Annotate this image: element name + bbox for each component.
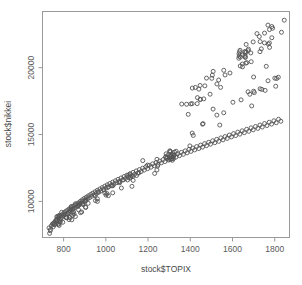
scatter-plot-figure: 80010001200140016001800 100001500020000 …	[0, 0, 302, 285]
data-point	[215, 82, 219, 86]
x-tick-label: 1200	[139, 244, 158, 254]
y-tick-label: 10000	[27, 189, 37, 213]
data-point	[249, 51, 253, 55]
data-point	[222, 111, 226, 115]
data-point	[180, 102, 184, 106]
x-tick-label: 800	[57, 244, 71, 254]
x-tick-label: 1400	[181, 244, 200, 254]
data-points-layer	[47, 18, 286, 235]
data-point	[141, 159, 145, 163]
x-axis-title: stock$TOPIX	[141, 264, 191, 274]
data-point	[208, 92, 212, 96]
data-point	[222, 68, 226, 72]
y-tick-label: 15000	[27, 122, 37, 146]
data-point	[111, 191, 115, 195]
data-point	[258, 40, 262, 44]
data-point	[223, 73, 227, 77]
y-tick-label: 20000	[27, 56, 37, 80]
x-tick-label: 1800	[265, 244, 284, 254]
data-point	[262, 41, 266, 45]
data-point	[263, 31, 267, 35]
y-axis-title: stock$nikkei	[3, 101, 13, 147]
data-point	[264, 64, 268, 68]
data-point	[219, 85, 223, 89]
data-point	[215, 113, 219, 117]
data-point	[251, 40, 255, 44]
data-point	[217, 78, 221, 82]
data-point	[267, 41, 271, 45]
data-point	[274, 84, 278, 88]
data-point	[186, 112, 190, 116]
data-point	[185, 102, 189, 106]
data-point	[231, 100, 235, 104]
plot-canvas: 80010001200140016001800 100001500020000 …	[0, 0, 302, 285]
x-tick-label: 1000	[96, 244, 115, 254]
data-point	[239, 98, 243, 102]
data-point	[48, 231, 52, 235]
data-point	[279, 30, 283, 34]
data-point	[250, 104, 254, 108]
data-point	[282, 18, 286, 22]
data-point	[119, 186, 123, 190]
data-point	[244, 42, 248, 46]
data-point	[155, 168, 159, 172]
data-point	[130, 184, 134, 188]
data-point	[266, 79, 270, 83]
data-point	[255, 32, 259, 36]
data-point	[131, 178, 135, 182]
data-point	[205, 76, 209, 80]
x-axis-ticks: 80010001200140016001800	[57, 238, 285, 254]
data-point	[211, 107, 215, 111]
data-point	[203, 84, 207, 88]
x-tick-label: 1600	[223, 244, 242, 254]
data-point	[197, 87, 201, 91]
data-point	[252, 75, 256, 79]
data-point	[228, 71, 232, 75]
data-point	[266, 23, 270, 27]
data-point	[249, 60, 253, 64]
data-point	[218, 123, 222, 127]
data-point	[270, 36, 274, 40]
data-point	[195, 102, 199, 106]
y-axis-ticks: 100001500020000	[27, 56, 43, 214]
